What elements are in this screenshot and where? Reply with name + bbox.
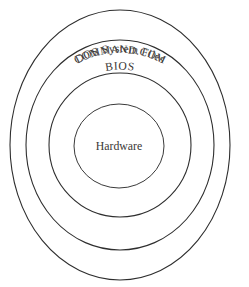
ring-label-bios-textpath: BIOS xyxy=(104,59,136,73)
diagram-canvas: COMMAND.COM DOS System Files BIOS Hardwa… xyxy=(0,0,249,287)
ring-label-bios: BIOS xyxy=(104,59,136,73)
concentric-rings-diagram: COMMAND.COM DOS System Files BIOS Hardwa… xyxy=(0,0,249,287)
ring-label-hardware: Hardware xyxy=(96,139,143,153)
